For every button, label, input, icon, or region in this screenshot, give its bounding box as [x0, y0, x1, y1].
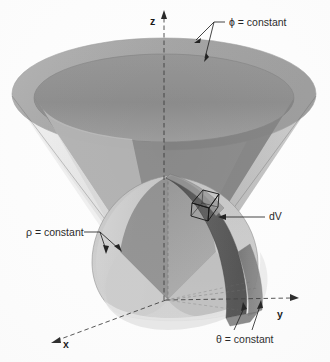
scan-grain-overlay	[0, 0, 330, 362]
spherical-coordinates-figure: z x y ϕ = constant ρ = constant dV	[0, 0, 330, 362]
figure-canvas: z x y ϕ = constant ρ = constant dV	[0, 0, 330, 362]
